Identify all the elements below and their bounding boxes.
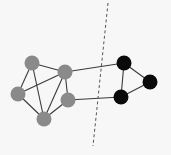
black-cluster-node-H <box>114 90 129 105</box>
gray-cluster-node-A <box>25 56 40 71</box>
gray-cluster-node-B <box>58 65 73 80</box>
black-cluster-node-F <box>117 56 132 71</box>
gray-cluster-node-D <box>61 93 76 108</box>
black-cluster-node-G <box>143 75 158 90</box>
gray-cluster-node-C <box>11 87 26 102</box>
gray-cluster-node-E <box>37 112 52 127</box>
graph-partition-diagram <box>0 0 171 155</box>
